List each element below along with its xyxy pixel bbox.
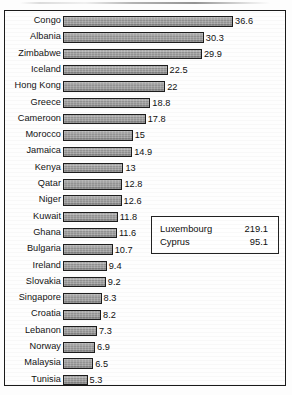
bar-value-label: 17.8 bbox=[148, 114, 166, 124]
category-label: Croatia bbox=[0, 308, 61, 319]
bar bbox=[63, 65, 168, 75]
bar-row: Slovakia9.2 bbox=[5, 275, 285, 291]
inset-row: Luxembourg 219.1 bbox=[160, 222, 268, 235]
bar bbox=[63, 147, 132, 157]
bar-value-label: 8.3 bbox=[104, 293, 117, 303]
bar bbox=[63, 261, 107, 271]
category-label: Zimbabwe bbox=[0, 48, 61, 59]
bar-value-label: 6.5 bbox=[95, 359, 108, 369]
bar bbox=[63, 81, 165, 91]
bar-value-label: 12.8 bbox=[124, 179, 142, 189]
bar-value-label: 5.3 bbox=[90, 375, 103, 385]
category-label: Cameroon bbox=[0, 113, 61, 124]
bar-value-label: 14.9 bbox=[134, 147, 152, 157]
scan-artifact-line bbox=[20, 2, 270, 4]
bar-row: Jamaica14.9 bbox=[5, 144, 285, 160]
inset-country-label: Luxembourg bbox=[160, 222, 212, 235]
bar bbox=[63, 310, 101, 320]
bar-value-label: 12.6 bbox=[124, 196, 142, 206]
category-label: Kuwait bbox=[0, 211, 61, 222]
category-label: Ghana bbox=[0, 227, 61, 238]
bar-row: Lebanon7.3 bbox=[5, 324, 285, 340]
bar bbox=[63, 179, 122, 189]
bar bbox=[63, 293, 102, 303]
bar-value-label: 15 bbox=[135, 130, 145, 140]
bar bbox=[63, 342, 95, 352]
bar-row: Qatar12.8 bbox=[5, 177, 285, 193]
bar-chart-plot-area: Congo36.6Albania30.3Zimbabwe29.9Iceland2… bbox=[5, 11, 285, 385]
category-label: Bulgaria bbox=[0, 243, 61, 254]
category-label: Kenya bbox=[0, 162, 61, 173]
bar-row: Albania30.3 bbox=[5, 30, 285, 46]
bar-value-label: 7.3 bbox=[99, 326, 112, 336]
category-label: Qatar bbox=[0, 178, 61, 189]
category-label: Lebanon bbox=[0, 325, 61, 336]
bar bbox=[63, 163, 123, 173]
bar-value-label: 8.2 bbox=[103, 310, 116, 320]
bar-value-label: 11.6 bbox=[119, 228, 136, 238]
bar-row: Kenya13 bbox=[5, 161, 285, 177]
chart-page: Congo36.6Albania30.3Zimbabwe29.9Iceland2… bbox=[0, 0, 292, 395]
bar bbox=[63, 32, 204, 42]
bar-row: Iceland22.5 bbox=[5, 63, 285, 79]
bar-row: Niger12.6 bbox=[5, 193, 285, 209]
bar-value-label: 9.4 bbox=[109, 261, 122, 271]
bar-row: Congo36.6 bbox=[5, 14, 285, 30]
category-label: Tunisia bbox=[0, 374, 61, 385]
bar-row: Ireland9.4 bbox=[5, 259, 285, 275]
bar-value-label: 18.8 bbox=[152, 98, 170, 108]
bar-value-label: 6.9 bbox=[97, 342, 110, 352]
bar-value-label: 11.8 bbox=[120, 212, 137, 222]
bar-value-label: 30.3 bbox=[206, 33, 224, 43]
bar bbox=[63, 326, 97, 336]
bar-row: Norway6.9 bbox=[5, 340, 285, 356]
bar-value-label: 22 bbox=[167, 82, 177, 92]
category-label: Malaysia bbox=[0, 357, 61, 368]
category-label: Congo bbox=[0, 15, 61, 26]
category-label: Ireland bbox=[0, 260, 61, 271]
bar-value-label: 29.9 bbox=[204, 49, 222, 59]
bar-row: Malaysia6.5 bbox=[5, 356, 285, 372]
inset-country-label: Cyprus bbox=[160, 235, 190, 248]
bar-value-label: 36.6 bbox=[235, 16, 253, 26]
bar-row: Cameroon17.8 bbox=[5, 112, 285, 128]
bar bbox=[63, 130, 133, 140]
bar bbox=[63, 375, 88, 385]
bar-row: Tunisia5.3 bbox=[5, 373, 285, 389]
bar bbox=[63, 49, 202, 59]
chart-frame: Congo36.6Albania30.3Zimbabwe29.9Iceland2… bbox=[4, 10, 286, 386]
bar bbox=[63, 228, 117, 238]
inset-value-label: 219.1 bbox=[245, 222, 268, 235]
bar-row: Morocco15 bbox=[5, 128, 285, 144]
bar-value-label: 22.5 bbox=[170, 65, 188, 75]
bar bbox=[63, 212, 118, 222]
bar-value-label: 10.7 bbox=[115, 245, 133, 255]
category-label: Albania bbox=[0, 31, 61, 42]
bar bbox=[63, 244, 113, 254]
category-label: Slovakia bbox=[0, 276, 61, 287]
outlier-inset-box: Luxembourg 219.1 Cyprus 95.1 bbox=[151, 216, 279, 254]
bar bbox=[63, 98, 150, 108]
bar-row: Singapore8.3 bbox=[5, 291, 285, 307]
category-label: Norway bbox=[0, 341, 61, 352]
bar bbox=[63, 114, 146, 124]
inset-value-label: 95.1 bbox=[250, 235, 268, 248]
category-label: Jamaica bbox=[0, 145, 61, 156]
category-label: Niger bbox=[0, 194, 61, 205]
category-label: Iceland bbox=[0, 64, 61, 75]
category-label: Greece bbox=[0, 97, 61, 108]
category-label: Singapore bbox=[0, 292, 61, 303]
bar-row: Croatia8.2 bbox=[5, 307, 285, 323]
bar bbox=[63, 195, 122, 205]
bar bbox=[63, 277, 106, 287]
bar-row: Greece18.8 bbox=[5, 96, 285, 112]
bar-row: Zimbabwe29.9 bbox=[5, 47, 285, 63]
bar-row: Hong Kong22 bbox=[5, 79, 285, 95]
bar bbox=[63, 16, 233, 26]
category-label: Morocco bbox=[0, 129, 61, 140]
bar bbox=[63, 358, 93, 368]
inset-row: Cyprus 95.1 bbox=[160, 235, 268, 248]
bar-value-label: 13 bbox=[125, 163, 135, 173]
bar-value-label: 9.2 bbox=[108, 277, 121, 287]
category-label: Hong Kong bbox=[0, 80, 61, 91]
